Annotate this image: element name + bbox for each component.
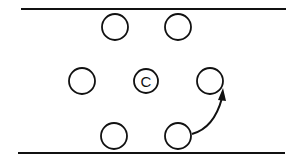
circle-middle-right [197, 68, 223, 94]
circle-middle-left [69, 68, 95, 94]
circle-top-left [102, 14, 128, 40]
jump-arrow [192, 98, 222, 134]
circle-bottom-left [101, 123, 127, 149]
particles: C [69, 14, 223, 149]
circle-bottom-right [165, 123, 191, 149]
circle-center: C [134, 69, 158, 93]
diagram-canvas: C [0, 0, 298, 165]
boundary-lines [18, 9, 286, 153]
circle-top-right [165, 14, 191, 40]
circle-label: C [141, 73, 152, 90]
